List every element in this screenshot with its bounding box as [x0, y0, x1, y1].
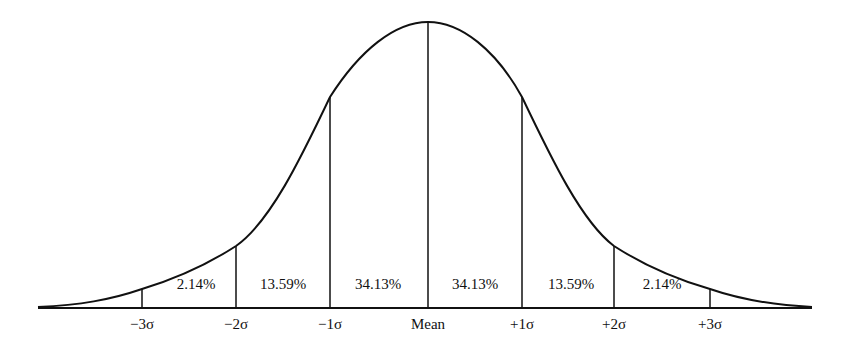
tick-label: +2σ	[602, 316, 626, 333]
tick-label: Mean	[411, 316, 445, 333]
tick-label: +3σ	[698, 316, 722, 333]
bell-curve	[38, 22, 812, 307]
tick-label: −1σ	[318, 316, 342, 333]
bell-curve-plot	[0, 0, 849, 352]
region-label: 2.14%	[643, 276, 682, 293]
tick-label: −3σ	[130, 316, 154, 333]
region-label: 34.13%	[355, 276, 401, 293]
region-label: 2.14%	[177, 276, 216, 293]
tick-label: +1σ	[510, 316, 534, 333]
region-label: 34.13%	[452, 276, 498, 293]
tick-label: −2σ	[224, 316, 248, 333]
region-label: 13.59%	[548, 276, 594, 293]
region-label: 13.59%	[260, 276, 306, 293]
normal-distribution-chart: 2.14% 13.59% 34.13% 34.13% 13.59% 2.14% …	[0, 0, 849, 352]
